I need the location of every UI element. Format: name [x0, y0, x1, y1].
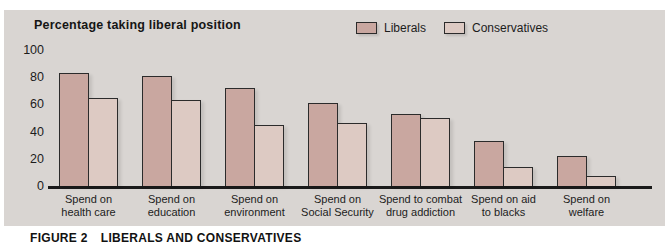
figure-label: FIGURE 2	[30, 231, 88, 243]
bar-liberals-7	[557, 156, 587, 186]
bar-liberals-4	[308, 103, 338, 186]
liberals-swatch-icon	[356, 22, 377, 34]
bar-conservatives-3	[254, 125, 284, 186]
x-axis-label: Spend on welfare	[527, 193, 647, 219]
bar-liberals-1	[59, 73, 89, 186]
conservatives-legend-label: Conservatives	[472, 21, 548, 35]
bar-conservatives-6	[503, 167, 533, 186]
bar-conservatives-5	[420, 118, 450, 186]
bar-conservatives-1	[88, 98, 118, 186]
y-tick-label: 80	[10, 70, 44, 84]
liberals-legend-label: Liberals	[384, 21, 426, 35]
y-tick-label: 60	[10, 97, 44, 111]
bar-conservatives-7	[586, 176, 616, 186]
chart-title: Percentage taking liberal position	[34, 18, 241, 32]
y-tick-label: 20	[10, 152, 44, 166]
bar-liberals-6	[474, 141, 504, 186]
bar-conservatives-4	[337, 123, 367, 186]
y-tick-label: 0	[10, 179, 44, 193]
figure-caption: FIGURE 2LIBERALS AND CONSERVATIVES	[30, 231, 301, 243]
y-tick-label: 100	[10, 43, 44, 57]
x-axis-line	[48, 186, 652, 189]
bar-liberals-3	[225, 88, 255, 186]
chart-panel: Percentage taking liberal position Liber…	[4, 10, 665, 226]
legend: Liberals Conservatives	[356, 21, 548, 35]
figure-title: LIBERALS AND CONSERVATIVES	[101, 231, 302, 243]
bar-conservatives-2	[171, 100, 201, 186]
legend-item-liberals: Liberals	[356, 21, 426, 35]
y-tick-label: 40	[10, 125, 44, 139]
legend-item-conservatives: Conservatives	[444, 21, 548, 35]
bar-liberals-5	[391, 114, 421, 186]
conservatives-swatch-icon	[444, 22, 465, 34]
bar-liberals-2	[142, 76, 172, 186]
